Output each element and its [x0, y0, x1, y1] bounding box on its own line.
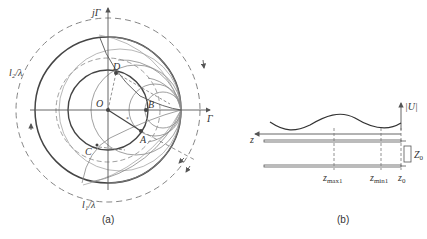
point-a	[139, 129, 143, 133]
dashed-od	[108, 73, 116, 110]
label-l1-lambda: l₁/λ	[82, 199, 96, 210]
rotation-arrow-lower2	[186, 166, 190, 172]
lower-conductor	[264, 165, 401, 167]
upper-conductor	[264, 140, 401, 142]
dashed-d-line	[116, 73, 170, 104]
caption-a: (a)	[102, 214, 114, 225]
standing-wave-curve	[270, 114, 401, 130]
load-impedance-box	[404, 146, 411, 162]
point-c	[96, 144, 99, 147]
load-label: Z0	[414, 149, 424, 162]
u-axis-label: |U|	[405, 101, 418, 112]
label-l2-lambda: l₂/λ	[9, 67, 23, 78]
point-o	[106, 108, 110, 112]
reactance-arc	[90, 110, 181, 182]
z0-label: z0	[397, 172, 406, 185]
label-d: D	[112, 61, 121, 72]
caption-b: (b)	[337, 214, 349, 225]
zmax1-label: zmax1	[322, 172, 343, 185]
rotation-arrow-right	[203, 60, 204, 68]
label-b: B	[148, 99, 154, 110]
dashed-a-extension	[141, 131, 195, 160]
smith-chart: * jΓ Γ O D B A C l₂/λ l₁/λ (a)	[9, 7, 213, 225]
real-axis-label: Γ	[206, 113, 213, 124]
line-oa	[108, 110, 141, 131]
transmission-line-diagram: |U| z Z0 zmax1 zmin1 z0 (b)	[249, 101, 424, 225]
angle-mark: *	[126, 116, 129, 122]
zmin1-label: zmin1	[369, 172, 389, 185]
figure-canvas: * jΓ Γ O D B A C l₂/λ l₁/λ (a) |U| z	[0, 0, 427, 239]
z-axis-label: z	[249, 134, 254, 145]
label-c: C	[85, 146, 92, 157]
label-a: A	[139, 134, 147, 145]
label-o: O	[96, 98, 103, 109]
imag-axis-label: jΓ	[90, 7, 101, 18]
